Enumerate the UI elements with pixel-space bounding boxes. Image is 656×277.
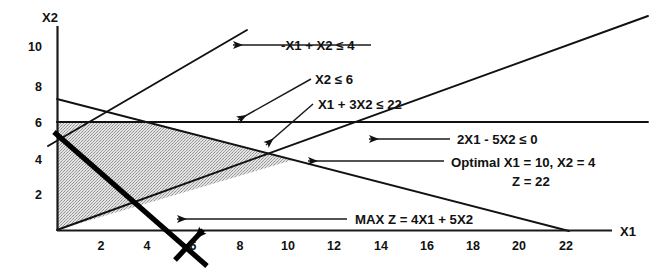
- x-tick-10: 10: [281, 239, 295, 253]
- y-tick-2: 2: [35, 188, 42, 202]
- y-tick-4: 4: [35, 153, 42, 167]
- x-tick-6: 6: [190, 239, 197, 253]
- y-tick-8: 8: [35, 80, 42, 94]
- annotation-max-objective: MAX Z = 4X1 + 5X2: [355, 212, 473, 227]
- y-tick-10: 10: [28, 40, 42, 54]
- feasible-region: [57, 122, 293, 230]
- annotation-optimal-z: Z = 22: [512, 174, 550, 189]
- annotation-optimal-solution: Optimal X1 = 10, X2 = 4: [451, 155, 596, 170]
- x-tick-16: 16: [420, 239, 434, 253]
- annotation-x1-plus-3x2: X1 + 3X2 ≤ 22: [318, 97, 402, 112]
- x-tick-12: 12: [327, 239, 341, 253]
- annotation-x2-le-6: X2 ≤ 6: [315, 72, 353, 87]
- x-tick-4: 4: [144, 239, 151, 253]
- y-tick-6: 6: [35, 116, 42, 130]
- leader-x2-le-6: [238, 79, 311, 120]
- plot-canvas: 10 8 6 4 2 2 4 6 8 10 12 14 16 18 20 22 …: [0, 0, 656, 277]
- linear-programming-graph: 10 8 6 4 2 2 4 6 8 10 12 14 16 18 20 22 …: [0, 0, 656, 277]
- x-tick-18: 18: [466, 239, 480, 253]
- x-tick-2: 2: [98, 239, 105, 253]
- annotation-neg-x1-plus-x2: -X1 + X2 ≤ 4: [281, 38, 355, 53]
- x-tick-22: 22: [559, 239, 573, 253]
- x-tick-8: 8: [237, 239, 244, 253]
- x-tick-14: 14: [374, 239, 388, 253]
- x-axis-title: X1: [620, 224, 636, 239]
- x-tick-20: 20: [512, 239, 526, 253]
- annotation-2x1-minus-5x2: 2X1 - 5X2 ≤ 0: [457, 132, 538, 147]
- y-axis-title: X2: [42, 10, 58, 25]
